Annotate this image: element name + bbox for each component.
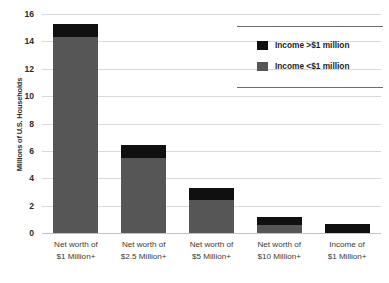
- y-axis-tick-label: 8: [0, 119, 34, 129]
- x-axis-label-line1: Net worth of: [190, 240, 234, 249]
- y-axis-tick-label: 10: [0, 91, 34, 101]
- legend-label-high: Income >$1 million: [275, 40, 349, 50]
- legend-bottom-divider: [237, 87, 383, 88]
- x-axis-label-line2: $10 Million+: [245, 251, 313, 263]
- x-axis-label-line1: Net worth of: [257, 240, 301, 249]
- bar-stack[interactable]: [121, 145, 166, 233]
- y-axis-tick-label: 16: [0, 9, 34, 19]
- y-axis-tick-label: 6: [0, 146, 34, 156]
- x-axis-label-line2: $5 Million+: [178, 251, 246, 263]
- bar-segment[interactable]: [53, 24, 98, 38]
- bar-stack[interactable]: [53, 24, 98, 233]
- stacked-bar-chart: Millions of U.S. Households 024681012141…: [0, 0, 389, 283]
- x-axis-label-line1: Income of: [329, 240, 365, 249]
- bar-segment[interactable]: [257, 225, 302, 233]
- bar-stack[interactable]: [257, 217, 302, 233]
- bar-segment[interactable]: [325, 224, 370, 233]
- x-axis-label-line2: $1 Million+: [313, 251, 381, 263]
- bar-segment[interactable]: [189, 200, 234, 233]
- bar-stack[interactable]: [189, 188, 234, 233]
- x-axis-tick-label: Net worth of$1 Million+: [42, 239, 110, 262]
- x-axis-tick-label: Net worth of$10 Million+: [245, 239, 313, 262]
- bar-segment[interactable]: [189, 188, 234, 200]
- x-axis-tick-label: Net worth of$2.5 Million+: [110, 239, 178, 262]
- y-axis-tick-label: 4: [0, 173, 34, 183]
- x-axis-label-line2: $1 Million+: [42, 251, 110, 263]
- gridline: [42, 233, 381, 234]
- legend-label-low: Income <$1 million: [275, 61, 349, 71]
- legend-swatch-icon-high: [257, 41, 268, 50]
- chart-legend: Income >$1 million Income <$1 million: [237, 26, 383, 88]
- x-axis-tick-label: Income of$1 Million+: [313, 239, 381, 262]
- y-axis-tick-label: 2: [0, 201, 34, 211]
- bar-segment[interactable]: [257, 217, 302, 225]
- bar-stack[interactable]: [325, 224, 370, 233]
- x-axis-tick-labels: Net worth of$1 Million+Net worth of$2.5 …: [42, 239, 381, 283]
- bar-segment[interactable]: [121, 158, 166, 233]
- legend-item-income-above-1m[interactable]: Income >$1 million: [257, 40, 349, 50]
- y-axis-tick-label: 0: [0, 228, 34, 238]
- legend-swatch-icon-low: [257, 62, 268, 71]
- x-axis-label-line1: Net worth of: [54, 240, 98, 249]
- x-axis-tick-label: Net worth of$5 Million+: [178, 239, 246, 262]
- y-axis-tick-label: 12: [0, 64, 34, 74]
- y-axis-tick-label: 14: [0, 36, 34, 46]
- bar-segment[interactable]: [121, 145, 166, 157]
- x-axis-label-line1: Net worth of: [122, 240, 166, 249]
- bar-segment[interactable]: [53, 37, 98, 233]
- x-axis-label-line2: $2.5 Million+: [110, 251, 178, 263]
- legend-top-divider: [237, 26, 383, 27]
- legend-item-income-below-1m[interactable]: Income <$1 million: [257, 61, 349, 71]
